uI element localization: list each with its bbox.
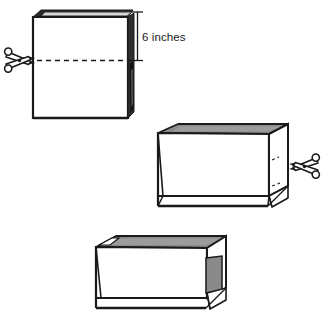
scissors-icon — [5, 48, 35, 72]
bag-front-face — [33, 17, 128, 118]
illustration-canvas: 6 inches — [0, 0, 322, 322]
scissors-icon — [289, 154, 319, 178]
figure-finished-box — [96, 236, 226, 309]
bag-side-gusset — [128, 13, 134, 118]
box-side-flap — [206, 256, 222, 293]
dimension-label: 6 inches — [142, 31, 186, 43]
figure-tall-bag — [0, 0, 322, 322]
box-front-face — [96, 247, 207, 298]
cut-bag-front-face — [158, 133, 269, 196]
figure-cut-bag — [158, 124, 319, 207]
cut-bag-side-face — [269, 124, 288, 196]
